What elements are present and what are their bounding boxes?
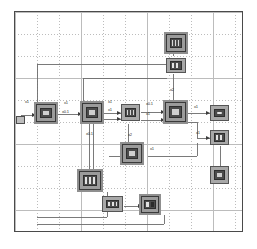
gain-input[interactable]: x1 xyxy=(25,100,29,104)
node-stage-four-icon xyxy=(169,106,182,117)
node-output-upper[interactable] xyxy=(210,105,229,121)
node-lower-left-icon xyxy=(83,175,97,186)
node-bottom-left[interactable] xyxy=(102,196,123,212)
gain-n5-down[interactable]: x2 xyxy=(128,133,132,137)
gain-n3-n4[interactable]: x1 xyxy=(64,101,68,105)
node-stage-three[interactable] xyxy=(121,104,140,121)
node-lower-left[interactable] xyxy=(79,171,101,190)
node-output-mid[interactable] xyxy=(210,130,229,145)
node-input-left-icon xyxy=(40,108,53,118)
node-top-lower-icon xyxy=(170,61,183,69)
node-bottom-right[interactable] xyxy=(141,196,159,213)
node-top-upper-icon xyxy=(170,38,183,48)
node-branch-mid-icon xyxy=(126,148,139,159)
gain-n4-n5-alt[interactable]: x1 xyxy=(108,108,112,112)
node-top-upper[interactable] xyxy=(166,34,186,52)
node-bottom-right-icon xyxy=(144,200,155,209)
node-output-upper-icon xyxy=(214,109,226,118)
gain-n4-n5[interactable]: x1 xyxy=(108,100,112,104)
feedback-stub[interactable] xyxy=(16,116,25,124)
node-stage-two[interactable] xyxy=(82,103,102,122)
node-stage-two-icon xyxy=(86,107,99,118)
block-diagram-canvas[interactable]: x1x1x0.1x1x1x0.1x1x1x1x2x0.1x2x1 xyxy=(14,11,243,232)
node-bottom-left-icon xyxy=(106,200,119,209)
gain-n2-n6[interactable]: x2 xyxy=(170,88,174,92)
gain-n10-right[interactable]: x1 xyxy=(150,147,154,151)
node-branch-mid[interactable] xyxy=(122,144,142,163)
screenshot-root: x1x1x0.1x1x1x0.1x1x1x1x2x0.1x2x1 xyxy=(0,0,257,249)
gain-n3-n4-alt[interactable]: x0.1 xyxy=(62,110,69,114)
gain-n6-n7[interactable]: x1 xyxy=(194,105,198,109)
gain-n5-n6[interactable]: x0.1 xyxy=(146,102,153,106)
gain-n4-down[interactable]: x0.1 xyxy=(86,132,93,136)
node-input-left[interactable] xyxy=(36,104,56,122)
node-stage-four[interactable] xyxy=(165,102,186,122)
gain-n6-n8[interactable]: x1 xyxy=(196,131,200,135)
node-stage-three-icon xyxy=(125,108,137,117)
gain-n5-n6-alt[interactable]: x1 xyxy=(146,112,150,116)
node-top-lower[interactable] xyxy=(166,58,186,73)
node-output-lower-icon xyxy=(214,170,226,180)
node-output-mid-icon xyxy=(214,133,226,141)
node-output-lower[interactable] xyxy=(210,166,229,184)
